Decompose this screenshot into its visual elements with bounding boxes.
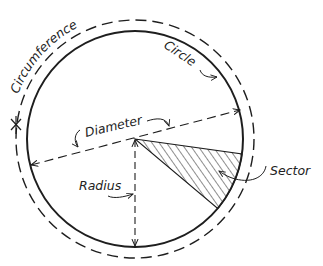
circle-diagram: Circumference Circle Diameter Radius Sec…: [0, 0, 323, 266]
diameter-label: Diameter: [83, 112, 144, 140]
radius-pointer-arrow-icon: [108, 194, 133, 197]
circumference-tick-icon: [11, 116, 21, 134]
diameter-pointer-left-arrow-icon: [75, 130, 80, 147]
diameter-pointer-right-arrow-icon: [147, 119, 169, 126]
sector-label: Sector: [270, 163, 311, 178]
radius-label: Radius: [79, 178, 122, 193]
circle-pointer-arrow-icon: [200, 70, 217, 77]
